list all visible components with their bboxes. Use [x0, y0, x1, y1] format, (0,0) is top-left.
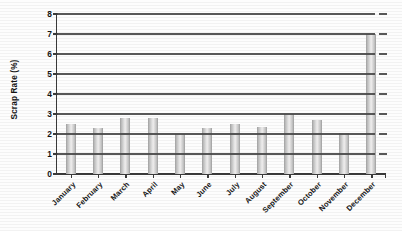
x-label-slot: July: [221, 178, 248, 228]
bar-slot: [303, 14, 330, 174]
bar: [66, 124, 76, 174]
y-tick-label: 0: [47, 170, 52, 178]
bar: [175, 134, 185, 174]
bar: [120, 118, 130, 174]
bar-slot: [330, 14, 357, 174]
y-tick-label: 5: [47, 70, 52, 78]
bar-slot: [139, 14, 166, 174]
bar-slot: [358, 14, 385, 174]
y-tick-label: 1: [47, 150, 52, 158]
bar-slot: [248, 14, 275, 174]
x-tick-mark: [385, 174, 386, 178]
bar-slot: [194, 14, 221, 174]
x-tick-label: May: [169, 180, 186, 197]
y-tick-label: 7: [47, 30, 52, 38]
x-tick-label: July: [224, 180, 241, 197]
bar-slot: [221, 14, 248, 174]
x-label-slot: June: [194, 178, 221, 228]
bar: [366, 34, 376, 174]
x-label-slot: December: [358, 178, 385, 228]
bar: [202, 128, 212, 174]
y-tick-label: 3: [47, 110, 52, 118]
bar: [312, 120, 322, 174]
x-label-slot: March: [112, 178, 139, 228]
plot-area: 876543210: [57, 14, 385, 174]
x-label-slot: April: [139, 178, 166, 228]
bar: [148, 118, 158, 174]
y-tick-label: 4: [47, 90, 52, 98]
x-tick-label: June: [194, 180, 213, 199]
y-tick-label: 2: [47, 130, 52, 138]
y-tick-label: 8: [47, 10, 52, 18]
bar-slot: [112, 14, 139, 174]
scrap-rate-bar-chart: Scrap Rate (%) 876543210 JanuaryFebruary…: [0, 0, 402, 231]
bar: [284, 114, 294, 174]
y-axis-title-text: Scrap Rate (%): [11, 59, 20, 119]
x-axis-labels: JanuaryFebruaryMarchAprilMayJuneJulyAugu…: [57, 178, 385, 228]
bars-layer: [57, 14, 385, 174]
x-label-slot: February: [84, 178, 111, 228]
x-tick-label: January: [50, 180, 77, 207]
bar: [93, 128, 103, 174]
bar-slot: [57, 14, 84, 174]
bar-slot: [84, 14, 111, 174]
y-axis-title: Scrap Rate (%): [4, 0, 26, 178]
bar: [230, 124, 240, 174]
y-tick-label: 6: [47, 50, 52, 58]
bar-slot: [166, 14, 193, 174]
bar-slot: [276, 14, 303, 174]
bar: [257, 127, 267, 174]
bar: [339, 133, 349, 174]
x-label-slot: May: [166, 178, 193, 228]
x-tick-label: March: [109, 180, 132, 203]
x-tick-label: April: [140, 180, 159, 199]
